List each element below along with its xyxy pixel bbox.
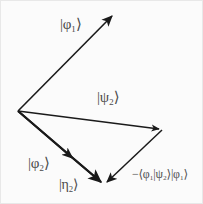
vector-phi2-midarrow [18, 111, 101, 182]
label-projection: −⟨φ₁|ψ₂⟩|φ₁⟩ [132, 168, 188, 180]
label-eta2: |η₂⟩ [59, 178, 78, 192]
label-psi2: |ψ₂⟩ [97, 90, 119, 105]
label-phi1: |φ₁⟩ [60, 17, 82, 32]
vector-psi2 [18, 111, 159, 129]
label-phi2: |φ₂⟩ [28, 156, 50, 171]
vector-diagram-figure: |φ₁⟩ |ψ₂⟩ |φ₂⟩ |η₂⟩ −⟨φ₁|ψ₂⟩|φ₁⟩ [0, 0, 203, 204]
